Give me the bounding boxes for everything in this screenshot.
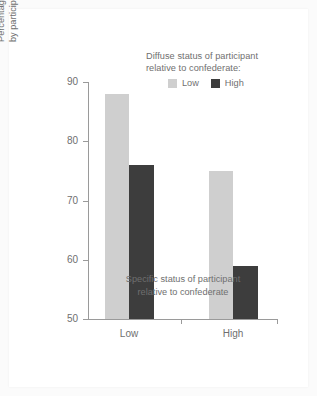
y-tick-70	[83, 201, 88, 202]
chart-card: Diffuse status of participant relative t…	[9, 9, 308, 387]
x-tick-end	[277, 320, 278, 324]
y-tick-50	[83, 319, 88, 320]
x-axis-title-line-1: Specific status of participant	[88, 273, 278, 286]
y-tick-label-70: 70	[67, 195, 78, 206]
x-tick-separator	[181, 320, 182, 324]
legend-title-line-1: Diffuse status of participant	[146, 51, 306, 63]
y-tick-label-60: 60	[67, 254, 78, 265]
x-category-label-high: High	[223, 328, 244, 339]
x-axis-line	[88, 319, 278, 320]
y-tick-label-50: 50	[67, 313, 78, 324]
y-axis-title-line-1: Percentage yielding responses	[0, 0, 7, 42]
x-axis-title-line-2: relative to confederate	[88, 286, 278, 299]
y-tick-90	[83, 82, 88, 83]
y-tick-label-90: 90	[67, 76, 78, 87]
y-axis-title: Percentage yielding responses by partici…	[0, 0, 19, 42]
y-tick-60	[83, 260, 88, 261]
y-tick-label-80: 80	[67, 135, 78, 146]
y-tick-80	[83, 141, 88, 142]
x-category-label-low: Low	[120, 328, 138, 339]
y-axis-title-line-2: by participants to confederate	[7, 0, 19, 42]
legend-title-line-2: relative to confederate:	[146, 63, 306, 75]
x-axis-title: Specific status of participant relative …	[88, 273, 278, 298]
figure-container: Diffuse status of participant relative t…	[0, 0, 317, 396]
